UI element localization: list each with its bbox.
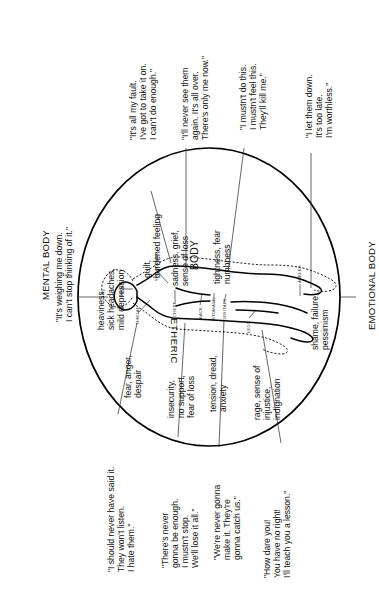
part-label-genitals: GENITALS [223, 299, 228, 321]
part-label-head: HEAD [120, 283, 125, 296]
mental-body-quote: "It's weighing me down. I can't stop thi… [54, 227, 74, 322]
sensation-genitals: tension, dread, anxiety [208, 355, 228, 412]
quote-genitals: "We're never gonna make it. They're gonn… [212, 485, 242, 560]
quote-chest: "I'll never see them again. It's all ove… [180, 56, 210, 140]
tick-back [200, 294, 202, 305]
sensation-head: heaviness, sick headaches, mild depressi… [96, 268, 126, 330]
sensation-ankles: shame, failure, pessimism [310, 294, 330, 350]
part-label-throat: THROAT [136, 307, 141, 325]
part-label-back: BACK [199, 307, 204, 319]
quote-back: "There's never gonna be enough. I mustn'… [160, 499, 201, 568]
quote-stomach: "I mustn't do this. I mustn't feel this.… [238, 63, 268, 130]
emotional-body-title: EMOTIONAL BODY [366, 241, 377, 330]
part-label-stomach: STOMACH [212, 298, 217, 321]
mental-body-title: MENTAL BODY [40, 230, 51, 300]
sensation-throat: fear, anger, despair [123, 355, 143, 398]
part-label-shoulders: SHOULDERS [155, 253, 160, 281]
etheric-label: ETHERIC [169, 318, 180, 364]
sensation-stomach: tightness, fear numbness [212, 230, 232, 284]
part-label-chest: CHEST [173, 302, 178, 317]
part-label-legs: LEGS [247, 321, 252, 333]
center-label-body: BODY [188, 240, 200, 270]
quote-legs: "How dare you! You have no right! I'll t… [262, 491, 292, 578]
sensation-legs: rage, sense of injustice, indignation [252, 366, 282, 420]
sensation-back: insecurity, no support, fear of loss [166, 375, 196, 418]
diagram-canvas: MENTAL BODY "It's weighing me down. I ca… [0, 0, 379, 589]
quote-shoulders: "It's all my fault. I've got to take it … [128, 63, 158, 140]
quote-ankles: "I let them down. It's too late. I'm wor… [304, 74, 334, 138]
quote-throat: "I should never have said it. They won't… [106, 467, 136, 572]
part-label-ankles: ANKLES [298, 265, 303, 283]
